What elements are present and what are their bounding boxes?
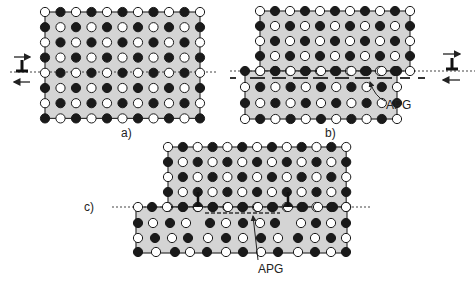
- atom-light: [164, 68, 173, 77]
- atom-light: [221, 247, 230, 256]
- atom-dark: [183, 233, 192, 242]
- atom-dark: [327, 172, 336, 181]
- atom-dark: [133, 247, 142, 256]
- atom-light: [40, 99, 49, 108]
- atom-light: [390, 21, 399, 30]
- atom-light: [253, 202, 262, 211]
- panel-label-c: c): [84, 201, 94, 213]
- atom-light: [327, 157, 336, 166]
- atom-light: [345, 6, 354, 15]
- atom-dark: [300, 36, 309, 45]
- atom-dark: [330, 6, 339, 15]
- atom-light: [332, 114, 341, 123]
- atom-light: [203, 233, 212, 242]
- atom-light: [87, 23, 96, 32]
- atom-dark: [270, 218, 279, 227]
- atom-light: [341, 233, 350, 242]
- atom-light: [312, 142, 321, 151]
- atom-light: [223, 142, 232, 151]
- atom-light: [56, 53, 65, 62]
- atom-dark: [223, 157, 232, 166]
- atom-light: [282, 172, 291, 181]
- atom-dark: [133, 83, 142, 92]
- atom-light: [297, 157, 306, 166]
- atom-light: [56, 23, 65, 32]
- atom-dark: [362, 66, 371, 75]
- atom-dark: [298, 202, 307, 211]
- atom-dark: [164, 114, 173, 123]
- atom-dark: [180, 7, 189, 16]
- atom-light: [149, 53, 158, 62]
- atom-light: [193, 172, 202, 181]
- atom-dark: [180, 38, 189, 47]
- atom-light: [149, 114, 158, 123]
- atom-dark: [347, 114, 356, 123]
- atom-dark: [342, 157, 351, 166]
- atom-light: [163, 142, 172, 151]
- atom-light: [208, 187, 217, 196]
- atom-dark: [285, 51, 294, 60]
- atom-light: [310, 233, 319, 242]
- atom-dark: [270, 6, 279, 15]
- atom-dark: [118, 38, 127, 47]
- atom-light: [185, 247, 194, 256]
- atom-light: [118, 114, 127, 123]
- atom-light: [118, 83, 127, 92]
- atom-light: [362, 82, 371, 91]
- atom-dark: [149, 99, 158, 108]
- atom-light: [315, 6, 324, 15]
- atom-dark: [255, 21, 264, 30]
- atom-light: [71, 38, 80, 47]
- atom-light: [40, 38, 49, 47]
- atom-light: [362, 114, 371, 123]
- atom-light: [180, 114, 189, 123]
- panel-label-a: a): [121, 127, 132, 139]
- atom-light: [221, 218, 230, 227]
- atom-dark: [362, 98, 371, 107]
- atom-light: [133, 7, 142, 16]
- atom-light: [342, 142, 351, 151]
- atom-dark: [56, 99, 65, 108]
- atom-dark: [341, 218, 350, 227]
- atom-light: [223, 172, 232, 181]
- atom-dark: [332, 98, 341, 107]
- atom-dark: [297, 172, 306, 181]
- atom-dark: [256, 114, 265, 123]
- atom-dark: [149, 7, 158, 16]
- atom-dark: [163, 187, 172, 196]
- atom-light: [405, 6, 414, 15]
- atom-dark: [312, 187, 321, 196]
- atom-light: [256, 98, 265, 107]
- atom-dark: [221, 233, 230, 242]
- atom-dark: [271, 98, 280, 107]
- atom-light: [87, 53, 96, 62]
- atom-light: [312, 172, 321, 181]
- atom-dark: [118, 7, 127, 16]
- atom-dark: [102, 23, 111, 32]
- atom-dark: [256, 233, 265, 242]
- atom-light: [180, 83, 189, 92]
- atom-dark: [326, 233, 335, 242]
- atom-dark: [223, 187, 232, 196]
- atom-light: [301, 114, 310, 123]
- atom-dark: [71, 114, 80, 123]
- atom-light: [313, 202, 322, 211]
- atom-light: [297, 187, 306, 196]
- apg-label-b: APG: [386, 99, 411, 111]
- atom-dark: [178, 142, 187, 151]
- atom-light: [195, 38, 204, 47]
- atom-dark: [40, 83, 49, 92]
- atom-light: [133, 233, 142, 242]
- atom-dark: [240, 98, 249, 107]
- atom-dark: [71, 53, 80, 62]
- atom-light: [390, 51, 399, 60]
- atom-dark: [345, 51, 354, 60]
- atom-dark: [315, 51, 324, 60]
- atom-dark: [253, 187, 262, 196]
- atom-light: [392, 114, 401, 123]
- atom-dark: [56, 68, 65, 77]
- atom-dark: [375, 21, 384, 30]
- atom-dark: [164, 83, 173, 92]
- atom-light: [195, 7, 204, 16]
- atom-light: [195, 99, 204, 108]
